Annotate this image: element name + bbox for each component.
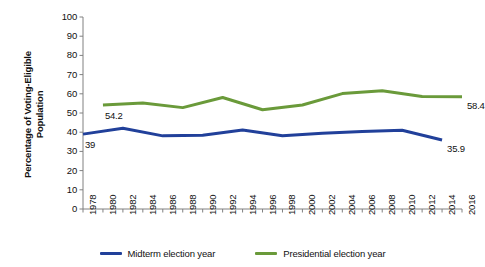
- y-axis-title: Percentage of Voting-Eligible Population: [22, 20, 45, 210]
- x-tick-label: 1984: [147, 195, 158, 215]
- y-tick-label: 20: [51, 165, 77, 176]
- data-label: 39: [85, 139, 95, 150]
- legend-swatch-icon: [100, 252, 122, 256]
- x-tick-label: 1990: [207, 195, 218, 215]
- x-tick-label: 1994: [247, 195, 258, 215]
- x-tick-label: 1988: [187, 195, 198, 215]
- y-tick-label: 40: [51, 126, 77, 137]
- x-tick-label: 2002: [326, 195, 337, 215]
- x-tick-label: 2014: [446, 195, 457, 215]
- x-tick-label: 1986: [167, 195, 178, 215]
- x-tick-label: 1982: [127, 195, 138, 215]
- y-tick-label: 50: [51, 107, 77, 118]
- x-tick-label: 1978: [87, 195, 98, 215]
- data-label: 58.4: [467, 100, 485, 111]
- data-label: 54.2: [105, 110, 123, 121]
- legend-item-1[interactable]: Midterm election year: [100, 248, 216, 259]
- series-line-2: [103, 91, 462, 110]
- legend-item-2[interactable]: Presidential election year: [255, 248, 385, 259]
- chart-figure: Percentage of Voting-Eligible Population…: [0, 0, 485, 267]
- legend-label: Presidential election year: [283, 248, 385, 259]
- x-tick-label: 2000: [306, 195, 317, 215]
- x-tick-label: 2010: [406, 195, 417, 215]
- x-tick-label: 2012: [426, 195, 437, 215]
- y-tick-label: 60: [51, 88, 77, 99]
- legend-swatch-icon: [255, 252, 277, 256]
- y-tick-label: 90: [51, 30, 77, 41]
- x-tick-label: 1998: [286, 195, 297, 215]
- series-line-1: [83, 128, 442, 140]
- x-tick-label: 2016: [466, 195, 477, 215]
- x-tick-label: 2006: [366, 195, 377, 215]
- x-tick-label: 1996: [267, 195, 278, 215]
- axes-layer: [80, 17, 463, 213]
- y-tick-label: 80: [51, 49, 77, 60]
- x-tick-label: 1980: [107, 195, 118, 215]
- y-tick-label: 100: [51, 11, 77, 22]
- series-layer: [83, 91, 462, 140]
- y-tick-label: 0: [51, 203, 77, 214]
- y-tick-label: 30: [51, 145, 77, 156]
- x-tick-label: 1992: [227, 195, 238, 215]
- y-axis-title-line2: Population: [33, 20, 45, 210]
- x-tick-label: 2008: [386, 195, 397, 215]
- y-tick-label: 70: [51, 69, 77, 80]
- y-tick-label: 10: [51, 184, 77, 195]
- y-axis-title-line1: Percentage of Voting-Eligible: [22, 20, 34, 210]
- data-label: 35.9: [447, 143, 465, 154]
- chart-legend: Midterm election yearPresidential electi…: [0, 248, 485, 259]
- x-tick-label: 2004: [346, 195, 357, 215]
- legend-label: Midterm election year: [128, 248, 216, 259]
